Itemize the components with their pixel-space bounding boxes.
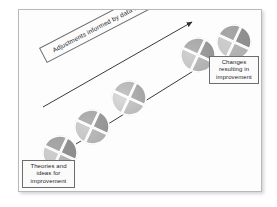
pdsa-cycle-2 bbox=[70, 105, 114, 149]
label-changes-line-1: Changes bbox=[212, 59, 256, 66]
label-theories-line-2: ideas for bbox=[25, 170, 72, 177]
label-theories-line-1: Theories and bbox=[25, 163, 72, 170]
label-changes-line-2: resulting in bbox=[212, 66, 256, 73]
diagram-frame-inner: Adjustments informed by data and learnin… bbox=[19, 10, 261, 191]
label-theories-and-ideas: Theories and ideas for improvement bbox=[22, 160, 75, 188]
pdsa-cycle-3 bbox=[107, 76, 151, 120]
label-theories-line-3: improvement bbox=[25, 178, 72, 185]
diagram-canvas: Adjustments informed by data and learnin… bbox=[0, 0, 277, 207]
diagram-frame: Adjustments informed by data and learnin… bbox=[18, 9, 262, 192]
label-changes-resulting: Changes resulting in improvement bbox=[209, 56, 259, 84]
label-changes-line-3: improvement bbox=[212, 74, 256, 81]
